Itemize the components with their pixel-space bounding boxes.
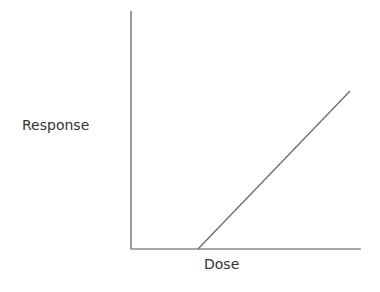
- y-axis-label: Response: [22, 117, 89, 133]
- chart-plot: [0, 0, 380, 292]
- x-axis-label: Dose: [204, 256, 239, 272]
- dose-response-line: [198, 91, 350, 249]
